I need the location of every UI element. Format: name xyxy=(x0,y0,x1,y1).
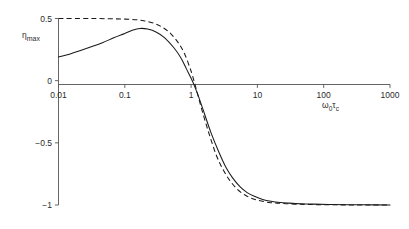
curve-solid xyxy=(59,28,391,205)
curve-dashed xyxy=(59,18,391,205)
y-tick-label-3: −1 xyxy=(42,200,52,210)
x-tick-label-1: 0.1 xyxy=(119,90,131,100)
x-tick-label-3: 10 xyxy=(253,90,263,100)
chart-figure: 0.50−0.5−10.010.11101001000 ηmaxω0τc xyxy=(0,0,409,229)
tick-marks-group xyxy=(55,19,390,206)
y-tick-label-2: −0.5 xyxy=(35,138,52,148)
x-axis-title-tau-subscript: c xyxy=(336,105,340,112)
data-curves-group xyxy=(59,18,391,205)
chart-canvas: 0.50−0.5−10.010.11101001000 ηmaxω0τc xyxy=(0,0,409,229)
x-tick-label-4: 100 xyxy=(317,90,331,100)
axes-group xyxy=(59,19,391,206)
y-tick-label-1: 0 xyxy=(47,76,52,86)
x-axis-title: ω0τc xyxy=(322,100,340,112)
axis-titles-group: ηmaxω0τc xyxy=(22,30,340,112)
x-tick-label-0: 0.01 xyxy=(50,90,67,100)
y-axis-title: ηmax xyxy=(22,30,40,42)
x-tick-label-5: 1000 xyxy=(381,90,400,100)
x-tick-label-2: 1 xyxy=(189,90,194,100)
y-axis-title-subscript: max xyxy=(27,35,41,42)
y-tick-label-0: 0.5 xyxy=(40,14,52,24)
tick-labels-group: 0.50−0.5−10.010.11101001000 xyxy=(35,14,400,211)
